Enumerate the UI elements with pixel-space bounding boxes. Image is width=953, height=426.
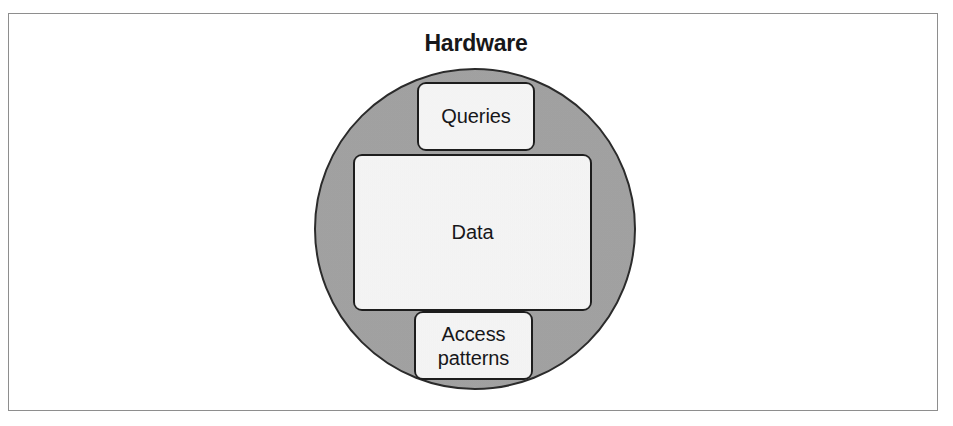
access-patterns-line-1: Access <box>442 323 506 345</box>
queries-box-label: Queries <box>441 104 510 129</box>
hardware-label: Hardware <box>315 28 637 58</box>
access-patterns-line-2: patterns <box>438 347 509 369</box>
data-box-label: Data <box>452 220 494 245</box>
queries-box: Queries <box>417 82 535 151</box>
data-box: Data <box>353 154 592 311</box>
access-patterns-box-label: Access patterns <box>438 322 509 370</box>
access-patterns-box: Access patterns <box>414 311 533 380</box>
figure-root: Hardware Queries Data Access patterns <box>0 0 953 426</box>
diagram-stage: Hardware Queries Data Access patterns <box>0 0 953 426</box>
